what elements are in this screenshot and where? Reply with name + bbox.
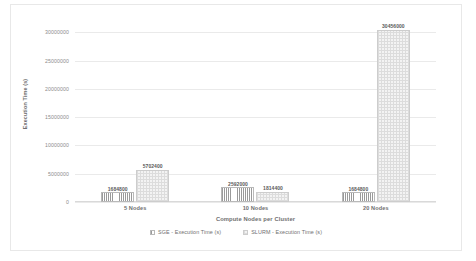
bar-value-label: 1684800: [348, 186, 368, 192]
legend-label-slurm: SLURM - Execution Time (s): [251, 229, 322, 235]
bar-slurm-20-nodes[interactable]: 30456000: [377, 30, 410, 202]
y-axis-tick-labels: 30000000 25000000 20000000 15000000 1000…: [11, 21, 73, 202]
legend-swatch-icon: [243, 230, 248, 235]
y-tick-label: 15000000: [45, 114, 69, 120]
bar-group-5-nodes: 1684800 5702400: [75, 21, 195, 202]
legend-label-sge: SGE - Execution Time (s): [158, 229, 221, 235]
bar-slurm-5-nodes[interactable]: 5702400: [136, 170, 169, 202]
legend-swatch-icon: [150, 230, 155, 235]
y-tick-label: 20000000: [45, 86, 69, 92]
bar-value-label: 1814400: [263, 185, 283, 191]
legend-item-sge[interactable]: SGE - Execution Time (s): [150, 229, 221, 235]
bar-sge-5-nodes[interactable]: 1684800: [101, 192, 134, 202]
bar-slurm-10-nodes[interactable]: 1814400: [256, 192, 289, 202]
gridline: [75, 202, 436, 203]
bar-sge-10-nodes[interactable]: 2592000: [221, 187, 254, 202]
x-axis-title: Compute Nodes per Cluster: [75, 216, 436, 222]
y-tick-label: 0: [66, 199, 69, 205]
bar-sge-20-nodes[interactable]: 1684800: [342, 192, 375, 202]
bar-wrapper: 2592000: [221, 21, 254, 202]
bar-group-20-nodes: 1684800 30456000: [316, 21, 436, 202]
bar-group-10-nodes: 2592000 1814400: [195, 21, 315, 202]
bar-wrapper: 1684800: [101, 21, 134, 202]
bar-value-label: 30456000: [382, 23, 405, 29]
chart-legend: SGE - Execution Time (s) SLURM - Executi…: [11, 229, 461, 235]
bar-value-label: 5702400: [143, 163, 163, 169]
plot-area: 1684800 5702400 2592000 18144: [75, 21, 436, 202]
y-tick-label: 25000000: [45, 58, 69, 64]
chart-card: Execution Time (s) 30000000 25000000 200…: [10, 4, 462, 251]
y-tick-label: 5000000: [48, 171, 69, 177]
bar-wrapper: 5702400: [136, 21, 169, 202]
bar-wrapper: 1684800: [342, 21, 375, 202]
bars-layer: 1684800 5702400 2592000 18144: [75, 21, 436, 202]
legend-item-slurm[interactable]: SLURM - Execution Time (s): [243, 229, 322, 235]
bar-value-label: 2592000: [228, 181, 248, 187]
y-tick-label: 10000000: [45, 142, 69, 148]
bar-value-label: 1684800: [108, 186, 128, 192]
bar-wrapper: 1814400: [256, 21, 289, 202]
bar-wrapper: 30456000: [377, 21, 410, 202]
y-tick-label: 30000000: [45, 29, 69, 35]
